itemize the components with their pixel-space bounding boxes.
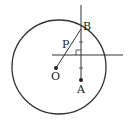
circle-o — [12, 20, 106, 114]
label-p: P — [62, 38, 70, 51]
point-a — [79, 78, 83, 82]
label-b: B — [83, 20, 91, 33]
label-a: A — [76, 83, 86, 96]
right-angle-mark — [76, 50, 81, 55]
label-o: O — [51, 70, 60, 83]
geometry-diagram: B P O A — [0, 0, 133, 124]
